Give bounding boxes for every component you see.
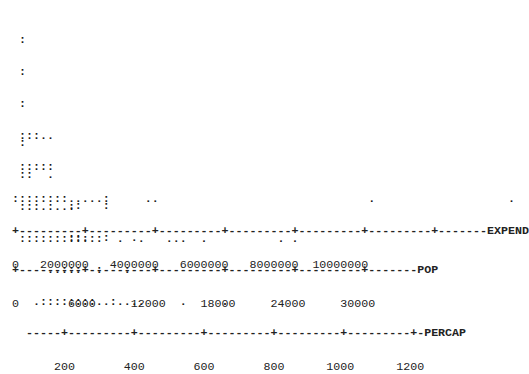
pop-dots-row-2: :: .	[12, 170, 438, 181]
expend-dots-row-2: :	[12, 67, 529, 78]
percap-dot-plot: .: : ::. : . ..::: : : .::::::::..:.... …	[12, 180, 466, 374]
percap-dots-row-4: .::::::::..:.... . .	[12, 297, 466, 308]
expend-dots-row-3: :	[12, 99, 529, 110]
percap-axis: -----+---------+---------+---------+----…	[12, 328, 466, 339]
percap-dots-row-1: .: :	[12, 201, 466, 212]
expend-dots-row-1: :	[12, 35, 529, 46]
percap-dots-row-2: ::. : .	[12, 233, 466, 244]
percap-dots-row-3: ..::: : :	[12, 265, 466, 276]
pop-dots-row-1: :	[12, 138, 438, 149]
percap-tick-labels: 200 400 600 800 1000 1200	[12, 362, 466, 374]
